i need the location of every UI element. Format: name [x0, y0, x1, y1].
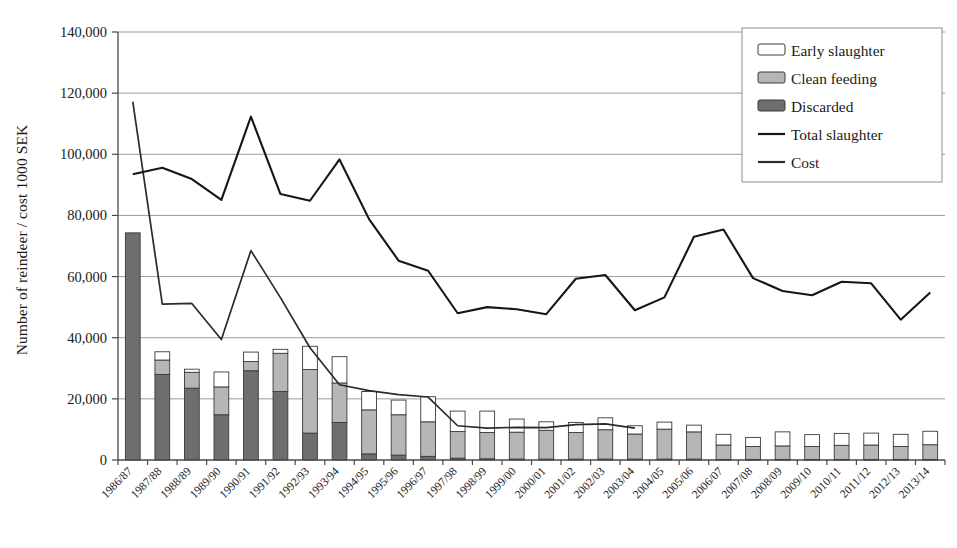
bar-segment-clean-feeding [244, 362, 259, 371]
bar-segment-early-slaughter [657, 422, 672, 429]
bar-segment-early-slaughter [893, 434, 908, 446]
y-tick-label: 120,000 [60, 85, 107, 101]
bar-segment-early-slaughter [303, 346, 318, 369]
x-tick-label: 1990/91 [217, 465, 253, 501]
x-tick-label: 2008/09 [749, 465, 785, 501]
bar-segment-clean-feeding [657, 429, 672, 459]
bar-segment-clean-feeding [480, 432, 495, 458]
bar-segment-clean-feeding [273, 353, 288, 391]
bar-segment-clean-feeding [627, 434, 642, 459]
bar-stack [627, 426, 642, 460]
x-axis-ticks-group: 1986/871987/881988/891989/901990/911991/… [99, 460, 945, 501]
bar-stack [775, 432, 790, 460]
bar-segment-clean-feeding [421, 422, 436, 457]
bar-segment-clean-feeding [568, 432, 583, 459]
legend: Early slaughterClean feedingDiscardedTot… [742, 28, 942, 182]
bar-segment-early-slaughter [244, 352, 259, 361]
bar-segment-clean-feeding [303, 370, 318, 434]
x-tick-label: 1998/99 [453, 465, 489, 501]
bar-segment-clean-feeding [509, 432, 524, 459]
x-tick-label: 2012/13 [867, 465, 903, 501]
bar-segment-clean-feeding [746, 447, 761, 460]
legend-swatch-icon [758, 100, 785, 111]
bar-stack [687, 425, 702, 460]
x-tick-label: 1993/94 [306, 465, 342, 501]
bar-segment-clean-feeding [214, 387, 229, 415]
bar-segment-discarded [362, 454, 377, 460]
bar-segment-early-slaughter [775, 432, 790, 446]
bar-segment-early-slaughter [273, 349, 288, 353]
x-tick-label: 2011/12 [838, 465, 874, 501]
bar-segment-clean-feeding [923, 445, 938, 460]
legend-swatch-icon [758, 44, 785, 55]
bar-segment-early-slaughter [539, 422, 554, 431]
legend-label: Discarded [791, 98, 854, 115]
x-tick-label: 2005/06 [660, 465, 696, 501]
y-tick-label: 20,000 [67, 391, 107, 407]
bar-stack [509, 419, 524, 460]
x-tick-label: 2002/03 [571, 465, 607, 501]
bar-segment-discarded [125, 233, 140, 460]
y-tick-label: 140,000 [60, 24, 107, 40]
bar-stack [362, 392, 377, 460]
bar-stack [184, 369, 199, 460]
x-tick-label: 1997/98 [424, 465, 460, 501]
x-tick-label: 1994/95 [335, 465, 371, 501]
bar-stack [657, 422, 672, 460]
x-tick-label: 1988/89 [158, 465, 194, 501]
bar-stack [332, 357, 347, 460]
bar-segment-clean-feeding [362, 410, 377, 454]
legend-label: Total slaughter [791, 126, 883, 143]
bar-stack [303, 346, 318, 460]
bar-segment-discarded [214, 415, 229, 460]
x-tick-label: 2001/02 [542, 465, 578, 501]
bar-stack [214, 372, 229, 460]
bar-segment-discarded [273, 392, 288, 460]
bar-stack [391, 400, 406, 460]
bar-stack [244, 352, 259, 460]
bar-segment-early-slaughter [805, 435, 820, 447]
bar-segment-early-slaughter [687, 425, 702, 432]
bar-segment-early-slaughter [480, 411, 495, 432]
bar-stack [480, 411, 495, 460]
bar-stack [805, 435, 820, 461]
x-tick-label: 2010/11 [808, 465, 844, 501]
bar-segment-clean-feeding [687, 432, 702, 459]
legend-label: Clean feeding [791, 70, 877, 87]
bar-segment-clean-feeding [775, 446, 790, 459]
bar-segment-clean-feeding [893, 447, 908, 460]
x-tick-label: 1999/00 [483, 465, 519, 501]
bar-segment-clean-feeding [716, 445, 731, 459]
x-tick-label: 1992/93 [276, 465, 312, 501]
x-tick-label: 2004/05 [630, 465, 666, 501]
bar-segment-clean-feeding [332, 383, 347, 422]
bar-stack [746, 437, 761, 460]
legend-label: Early slaughter [791, 42, 885, 59]
bar-segment-early-slaughter [509, 419, 524, 432]
bar-segment-early-slaughter [716, 434, 731, 445]
x-tick-label: 2000/01 [512, 465, 548, 501]
y-tick-label: 100,000 [60, 146, 107, 162]
y-tick-label: 0 [100, 452, 107, 468]
x-tick-label: 2009/10 [778, 465, 814, 501]
bar-segment-early-slaughter [184, 369, 199, 372]
bar-segment-discarded [155, 374, 170, 460]
chart-figure: Number of reindeer / cost 1000 SEK 020,0… [0, 0, 957, 548]
bar-stack [716, 434, 731, 460]
bar-segment-early-slaughter [834, 433, 849, 445]
bar-segment-discarded [332, 422, 347, 460]
x-tick-label: 1987/88 [128, 465, 164, 501]
bar-stack [568, 422, 583, 460]
bar-segment-early-slaughter [214, 372, 229, 387]
x-tick-label: 1996/97 [394, 465, 430, 501]
bar-segment-early-slaughter [746, 437, 761, 446]
bar-segment-discarded [184, 388, 199, 460]
x-tick-label: 2006/07 [690, 465, 726, 501]
bar-segment-early-slaughter [362, 392, 377, 410]
bar-segment-discarded [391, 455, 406, 460]
bar-segment-clean-feeding [834, 445, 849, 459]
y-tick-label: 80,000 [67, 207, 107, 223]
x-tick-label: 1986/87 [99, 465, 135, 501]
bar-segment-clean-feeding [864, 445, 879, 459]
bar-segment-early-slaughter [864, 433, 879, 445]
